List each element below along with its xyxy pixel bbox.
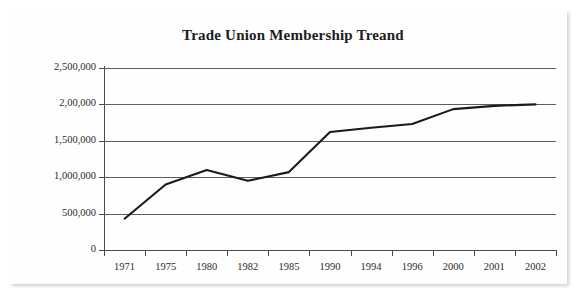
gridline-y-2000000 bbox=[104, 104, 556, 105]
gridline-y-2500000 bbox=[104, 68, 556, 69]
x-axis-tick-label: 1994 bbox=[361, 261, 382, 272]
x-axis-tick-label: 1985 bbox=[278, 261, 299, 272]
y-axis-tick-label: 1,500,000 bbox=[20, 134, 96, 145]
x-axis-tick-label: 2001 bbox=[484, 261, 505, 272]
y-axis-tick-label: 500,000 bbox=[20, 207, 96, 218]
y-axis-tick-label: 0 bbox=[20, 243, 96, 254]
plot-area bbox=[104, 68, 556, 250]
y-axis-labels: 0500,0001,000,0001,500,0002,00,0002,500,… bbox=[18, 0, 96, 304]
x-axis-tick-label: 1975 bbox=[155, 261, 176, 272]
x-axis-tick-label: 2002 bbox=[525, 261, 546, 272]
y-tick-2500000 bbox=[99, 68, 104, 69]
x-tick bbox=[556, 250, 557, 256]
x-tick bbox=[392, 250, 393, 256]
y-axis-tick-label: 1,000,000 bbox=[20, 170, 96, 181]
x-axis-line bbox=[104, 250, 557, 251]
y-axis-tick-label: 2,500,000 bbox=[20, 61, 96, 72]
x-tick bbox=[268, 250, 269, 256]
y-tick-500000 bbox=[99, 214, 104, 215]
gridline-y-500000 bbox=[104, 214, 556, 215]
chart-figure: Trade Union Membership Treand 0500,0001,… bbox=[0, 0, 586, 304]
x-tick bbox=[433, 250, 434, 256]
x-tick bbox=[351, 250, 352, 256]
x-tick bbox=[515, 250, 516, 256]
y-tick-2000000 bbox=[99, 104, 104, 105]
x-tick bbox=[145, 250, 146, 256]
gridline-y-1500000 bbox=[104, 141, 556, 142]
x-tick bbox=[104, 250, 105, 256]
x-axis-tick-label: 1982 bbox=[237, 261, 258, 272]
x-axis-tick-label: 2000 bbox=[443, 261, 464, 272]
y-tick-1500000 bbox=[99, 141, 104, 142]
x-tick bbox=[227, 250, 228, 256]
x-tick bbox=[186, 250, 187, 256]
x-tick bbox=[474, 250, 475, 256]
x-axis-tick-label: 1980 bbox=[196, 261, 217, 272]
y-axis-tick-label: 2,00,000 bbox=[20, 97, 96, 108]
y-tick-1000000 bbox=[99, 177, 104, 178]
gridline-y-1000000 bbox=[104, 177, 556, 178]
x-axis-tick-label: 1996 bbox=[402, 261, 423, 272]
x-axis-tick-label: 1990 bbox=[320, 261, 341, 272]
x-tick bbox=[309, 250, 310, 256]
x-axis-tick-label: 1971 bbox=[114, 261, 135, 272]
